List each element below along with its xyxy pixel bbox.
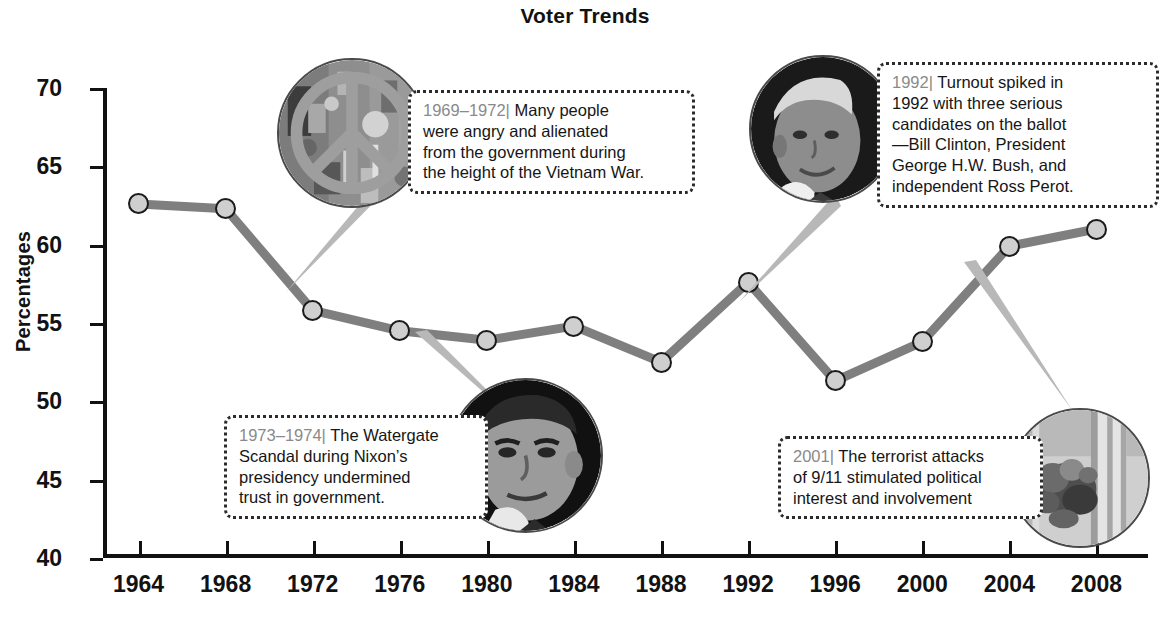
data-point-1988[interactable]	[651, 352, 672, 373]
y-tick-label-45: 45	[0, 467, 62, 494]
data-point-1984[interactable]	[563, 316, 584, 337]
callout-vietnam-year: 1969–1972|	[423, 101, 510, 119]
data-point-2004[interactable]	[999, 236, 1020, 257]
y-tick-label-55: 55	[0, 310, 62, 337]
callout-911-year: 2001|	[793, 447, 834, 465]
callout-1992-year: 1992|	[892, 73, 933, 91]
data-point-1972[interactable]	[302, 300, 323, 321]
x-tick-label-1996: 1996	[790, 571, 880, 598]
x-tick-label-1988: 1988	[616, 571, 706, 598]
callout-1992-text2: 1992 with three serious	[892, 93, 1145, 114]
y-tick-label-70: 70	[0, 75, 62, 102]
callout-watergate-line1: 1973–1974| The Watergate	[239, 425, 474, 446]
y-tick-40	[90, 558, 103, 561]
x-tick-label-1964: 1964	[94, 571, 184, 598]
y-tick-label-40: 40	[0, 545, 62, 572]
y-tick-70	[90, 88, 103, 91]
callout-vietnam-text3: from the government during	[423, 142, 681, 163]
y-tick-60	[90, 245, 103, 248]
callout-911-text1: The terrorist attacks	[834, 447, 984, 465]
y-tick-45	[90, 480, 103, 483]
callout-1992-text4: —Bill Clinton, President	[892, 134, 1145, 155]
chart-figure: Voter Trends Percentages 70 65 60 55 50 …	[0, 0, 1170, 623]
callout-vietnam: 1969–1972| Many people were angry and al…	[408, 90, 695, 194]
peace-sign-protest-photo	[277, 58, 427, 208]
callout-vietnam-text2: were angry and alienated	[423, 121, 681, 142]
callout-watergate: 1973–1974| The Watergate Scandal during …	[224, 415, 488, 519]
callout-watergate-text2: Scandal during Nixon’s	[239, 446, 474, 467]
pointer-wedge-clinton	[735, 190, 845, 305]
bill-clinton-portrait-photo	[749, 55, 897, 203]
clinton-photo-art	[751, 57, 895, 201]
callout-1992-text6: independent Ross Perot.	[892, 176, 1145, 197]
y-tick-65	[90, 166, 103, 169]
x-tick-label-1972: 1972	[268, 571, 358, 598]
data-point-2000[interactable]	[912, 331, 933, 352]
callout-911-line1: 2001| The terrorist attacks	[793, 446, 1029, 467]
callout-911-text3: interest and involvement	[793, 488, 1029, 509]
y-axis-label: Percentages	[12, 192, 35, 392]
x-tick-label-2004: 2004	[964, 571, 1054, 598]
callout-vietnam-text1: Many people	[510, 101, 609, 119]
callout-watergate-text1: The Watergate	[326, 426, 439, 444]
y-tick-55	[90, 323, 103, 326]
callout-vietnam-text4: the height of the Vietnam War.	[423, 162, 681, 183]
callout-watergate-text4: trust in government.	[239, 487, 474, 508]
x-tick-label-2000: 2000	[877, 571, 967, 598]
y-tick-50	[90, 401, 103, 404]
callout-watergate-text3: presidency undermined	[239, 467, 474, 488]
y-tick-label-60: 60	[0, 232, 62, 259]
peace-sign-photo-art	[279, 60, 425, 206]
x-tick-label-1980: 1980	[442, 571, 532, 598]
callout-watergate-year: 1973–1974|	[239, 426, 326, 444]
callout-nine-eleven: 2001| The terrorist attacks of 9/11 stim…	[778, 436, 1043, 519]
pointer-wedge-nineeleven	[960, 260, 1080, 420]
y-tick-label-65: 65	[0, 153, 62, 180]
x-tick-label-1984: 1984	[529, 571, 619, 598]
callout-turnout-1992: 1992| Turnout spiked in 1992 with three …	[877, 62, 1159, 208]
callout-1992-text5: George H.W. Bush, and	[892, 155, 1145, 176]
callout-1992-text3: candidates on the ballot	[892, 114, 1145, 135]
y-tick-label-50: 50	[0, 388, 62, 415]
x-tick-label-1968: 1968	[181, 571, 271, 598]
x-tick-label-2008: 2008	[1051, 571, 1141, 598]
callout-vietnam-line1: 1969–1972| Many people	[423, 100, 681, 121]
callout-911-text2: of 9/11 stimulated political	[793, 467, 1029, 488]
x-tick-label-1976: 1976	[355, 571, 445, 598]
data-point-2008[interactable]	[1086, 219, 1107, 240]
x-tick-label-1992: 1992	[703, 571, 793, 598]
page-title: Voter Trends	[0, 4, 1170, 28]
callout-1992-line1: 1992| Turnout spiked in	[892, 72, 1145, 93]
callout-1992-text1: Turnout spiked in	[933, 73, 1063, 91]
